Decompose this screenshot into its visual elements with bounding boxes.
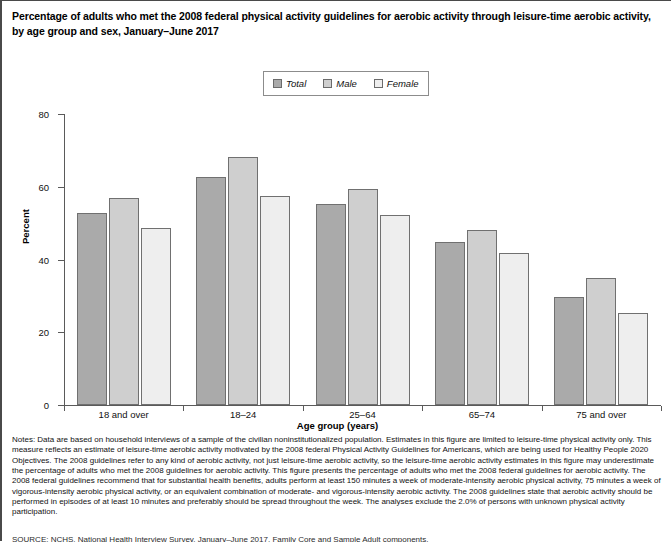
legend-label-female: Female [387,78,419,89]
bar-male-1 [109,198,139,405]
category-label-1: 18 and over [99,409,149,420]
category-label-4: 65–74 [469,409,495,420]
y-tick-60: 60 [58,187,64,188]
bar-total-2 [196,177,226,405]
x-tick-4 [542,406,543,411]
chart-legend: Total Male Female [263,71,429,96]
figure-source-clipped: SOURCE: NCHS, National Health Interview … [12,535,664,542]
bar-male-3 [348,189,378,405]
legend-entry-total: Total [273,78,306,89]
title-line-2: by age group and sex, January–June 2017 [12,24,660,39]
y-tick-label-0: 0 [44,400,49,411]
category-label-5: 75 and over [576,409,626,420]
bar-female-2 [260,196,290,405]
x-axis-title: Age group (years) [2,420,671,431]
y-tick-label-60: 60 [38,181,49,192]
x-tick-2 [303,406,304,411]
figure-notes: Notes: Data are based on household inter… [12,435,664,518]
figure-title: Percentage of adults who met the 2008 fe… [12,9,660,38]
bar-total-4 [435,242,465,405]
notes-text: Notes: Data are based on household inter… [12,435,664,518]
category-label-2: 18–24 [230,409,256,420]
legend-swatch-male [323,79,332,88]
y-tick-label-80: 80 [38,109,49,120]
y-tick-80: 80 [58,114,64,115]
legend-entry-male: Male [323,78,357,89]
legend-entry-female: Female [374,78,419,89]
legend-label-male: Male [336,78,357,89]
x-tick-5 [661,406,662,411]
bar-female-4 [499,253,529,405]
bar-total-5 [554,297,584,405]
bar-female-5 [618,313,648,405]
y-tick-label-40: 40 [38,254,49,265]
legend-swatch-total [273,79,282,88]
bar-female-3 [380,215,410,405]
category-label-3: 25–64 [349,409,375,420]
bar-total-1 [77,213,107,405]
bar-male-4 [467,230,497,405]
x-axis-line [64,405,661,406]
x-tick-3 [422,406,423,411]
y-tick-label-20: 20 [38,327,49,338]
bar-male-2 [228,157,258,405]
y-axis-title: Percent [20,209,31,244]
legend-label-total: Total [286,78,306,89]
x-tick-0 [64,406,65,411]
x-tick-1 [183,406,184,411]
y-tick-20: 20 [58,332,64,333]
bar-total-3 [316,204,346,405]
y-tick-40: 40 [58,260,64,261]
bar-male-5 [586,278,616,405]
plot-area: 020406080 [64,114,661,406]
title-line-1: Percentage of adults who met the 2008 fe… [12,9,660,24]
bar-female-1 [141,228,171,406]
legend-swatch-female [374,79,383,88]
y-axis-line [64,114,65,406]
